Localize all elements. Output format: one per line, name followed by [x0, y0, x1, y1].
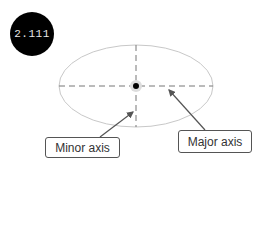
minor-axis-label: Minor axis: [45, 137, 120, 158]
major-axis-label: Major axis: [178, 130, 252, 153]
center-dot-icon: [133, 83, 139, 89]
major-axis-arrow: [169, 90, 205, 130]
minor-axis-arrow: [100, 112, 133, 137]
